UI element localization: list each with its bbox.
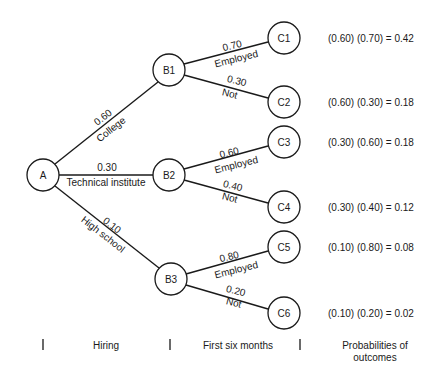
branch-label-technical: Technical institute (67, 177, 146, 188)
stage-label-first-six-months: First six months (203, 340, 273, 351)
branch-label-b1-c1: Employed (213, 48, 259, 69)
hiring-branch-labels: 0.60 College 0.30 Technical institute 0.… (67, 107, 146, 255)
branch-prob-b3-c5: 0.80 (218, 249, 240, 264)
probability-tree-diagram: A B1 B2 B3 C1 C2 C3 C4 C5 C6 0.60 Colleg… (0, 0, 441, 373)
branch-label-b2-c4: Not (221, 190, 239, 204)
node-labels: A B1 B2 B3 C1 C2 C3 C4 C5 C6 (40, 33, 291, 319)
node-label-b2: B2 (163, 170, 176, 181)
branch-prob-b1-c2: 0.30 (226, 73, 248, 88)
node-label-c1: C1 (278, 33, 291, 44)
outcome-prob-c5: (0.10) (0.80) = 0.08 (328, 242, 414, 253)
outcome-prob-c6: (0.10) (0.20) = 0.02 (328, 308, 414, 319)
branch-prob-technical: 0.30 (97, 162, 117, 173)
node-label-c4: C4 (278, 202, 291, 213)
stage-label-probabilities-line2: outcomes (353, 352, 396, 363)
node-label-c3: C3 (278, 137, 291, 148)
outcome-branch-labels: 0.70 Employed 0.30 Not 0.60 Employed 0.4… (213, 38, 259, 310)
branch-label-b1-c2: Not (221, 86, 239, 100)
node-label-c5: C5 (278, 242, 291, 253)
node-label-c6: C6 (278, 308, 291, 319)
node-label-a: A (40, 170, 47, 181)
edge-a-b1 (55, 82, 158, 164)
node-label-c2: C2 (278, 97, 291, 108)
stage-labels: Hiring First six months Probabilities of… (93, 340, 408, 363)
node-label-b1: B1 (163, 65, 176, 76)
branch-label-b3-c6: Not (225, 295, 243, 309)
outcome-prob-c2: (0.60) (0.30) = 0.18 (328, 97, 414, 108)
node-label-b3: B3 (165, 274, 178, 285)
outcome-prob-c3: (0.30) (0.60) = 0.18 (328, 137, 414, 148)
outcome-probabilities: (0.60) (0.70) = 0.42 (0.60) (0.30) = 0.1… (328, 33, 414, 319)
outcome-prob-c4: (0.30) (0.40) = 0.12 (328, 202, 414, 213)
outcome-prob-c1: (0.60) (0.70) = 0.42 (328, 33, 414, 44)
stage-label-hiring: Hiring (93, 340, 119, 351)
stage-label-probabilities-line1: Probabilities of (342, 340, 408, 351)
